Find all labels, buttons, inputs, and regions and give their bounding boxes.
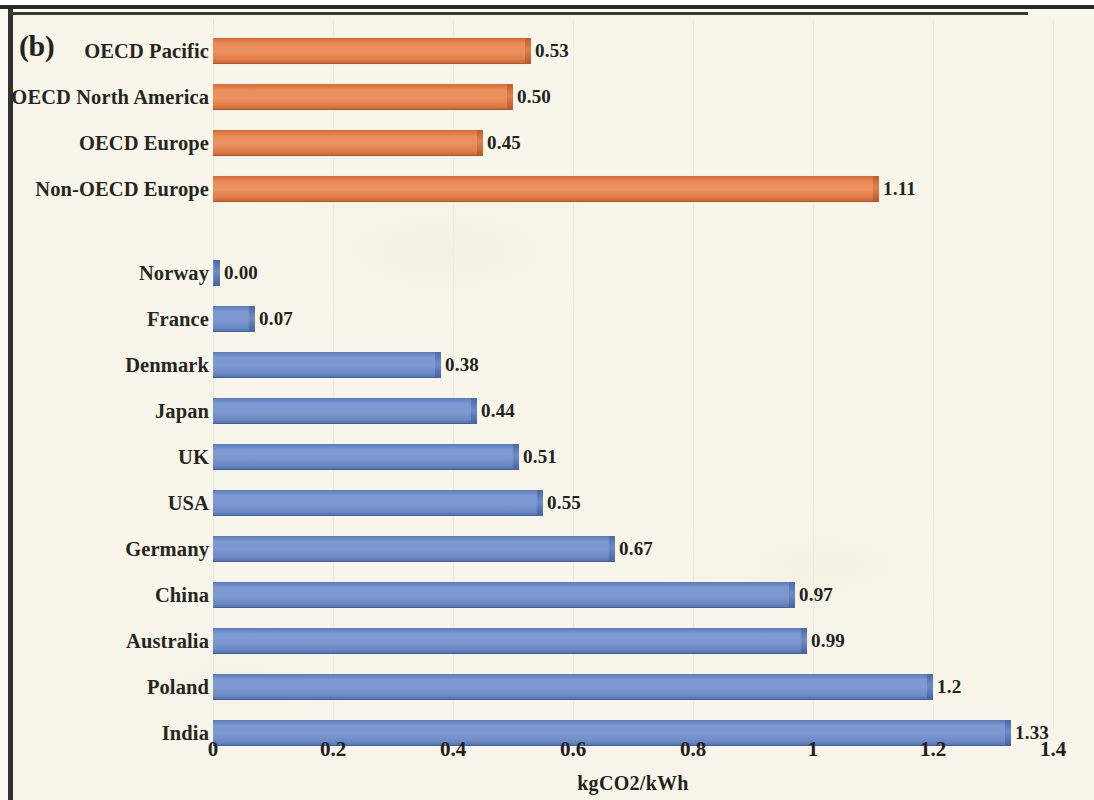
- bar-end-cap: [507, 84, 513, 110]
- bar-end-cap: [537, 490, 543, 516]
- x-axis-title: kgCO2/kWh: [213, 772, 1053, 795]
- bar-category-label: France: [0, 297, 209, 341]
- x-axis-tick-labels: 00.20.40.60.811.21.4: [13, 737, 1094, 771]
- x-axis-tick: 0.4: [440, 737, 466, 762]
- bar-end-cap: [927, 674, 933, 700]
- bar: [213, 176, 879, 202]
- x-axis-tick: 1.4: [1040, 737, 1066, 762]
- bar: [213, 490, 543, 516]
- bar-value-label: 0.99: [811, 619, 845, 663]
- bar-value-label: 0.67: [619, 527, 653, 571]
- bar-category-label: Poland: [0, 665, 209, 709]
- bar-row: China0.97: [13, 573, 1094, 617]
- bar-value-label: 0.53: [535, 29, 569, 73]
- x-axis-tick: 1.2: [920, 737, 946, 762]
- bar-row: OECD North America0.50: [13, 75, 1094, 119]
- bar-value-label: 0.55: [547, 481, 581, 525]
- bar-row: Australia0.99: [13, 619, 1094, 663]
- x-axis-tick: 0.2: [320, 737, 346, 762]
- x-axis-tick: 0.6: [560, 737, 586, 762]
- bar-end-cap: [525, 38, 531, 64]
- bar-row: USA0.55: [13, 481, 1094, 525]
- bar: [213, 628, 807, 654]
- bar-end-cap: [801, 628, 807, 654]
- bar-row: Denmark0.38: [13, 343, 1094, 387]
- bar: [213, 260, 220, 286]
- bar-rows: OECD Pacific0.53OECD North America0.50OE…: [13, 15, 1094, 800]
- bar-category-label: Non-OECD Europe: [0, 167, 209, 211]
- x-axis-tick: 0: [208, 737, 219, 762]
- bar: [213, 38, 531, 64]
- bar-end-cap: [789, 582, 795, 608]
- bar-value-label: 0.97: [799, 573, 833, 617]
- bar-category-label: OECD Pacific: [0, 29, 209, 73]
- bar-value-label: 0.51: [523, 435, 557, 479]
- bar-end-cap: [873, 176, 879, 202]
- page-top-rule: [0, 5, 1094, 9]
- bar-category-label: China: [0, 573, 209, 617]
- bar-value-label: 1.11: [883, 167, 916, 211]
- x-axis-tick: 0.8: [680, 737, 706, 762]
- bar: [213, 536, 615, 562]
- bar: [213, 84, 513, 110]
- bar-row: Germany0.67: [13, 527, 1094, 571]
- bar-end-cap: [513, 444, 519, 470]
- bar: [213, 582, 795, 608]
- bar-category-label: Norway: [0, 251, 209, 295]
- bar-category-label: USA: [0, 481, 209, 525]
- bar-category-label: OECD North America: [0, 75, 209, 119]
- bar-end-cap: [477, 130, 483, 156]
- bar-category-label: Australia: [0, 619, 209, 663]
- bar-end-cap: [609, 536, 615, 562]
- bar-row: OECD Europe0.45: [13, 121, 1094, 165]
- bar-category-label: Denmark: [0, 343, 209, 387]
- bar-row: Norway0.00: [13, 251, 1094, 295]
- scanned-figure-page: (b) OECD Pacific0.53OECD North America0.…: [0, 0, 1094, 800]
- bar-value-label: 0.07: [259, 297, 293, 341]
- bar-end-cap: [435, 352, 441, 378]
- bar-row: Japan0.44: [13, 389, 1094, 433]
- bar-end-cap: [471, 398, 477, 424]
- bar-chart: (b) OECD Pacific0.53OECD North America0.…: [13, 15, 1094, 800]
- bar-category-label: Japan: [0, 389, 209, 433]
- bar-row: Non-OECD Europe1.11: [13, 167, 1094, 211]
- bar-value-label: 0.44: [481, 389, 515, 433]
- bar-category-label: Germany: [0, 527, 209, 571]
- bar-value-label: 1.2: [937, 665, 961, 709]
- bar: [213, 352, 441, 378]
- bar: [213, 674, 933, 700]
- bar-value-label: 0.00: [224, 251, 258, 295]
- bar-category-label: UK: [0, 435, 209, 479]
- bar-end-cap: [214, 260, 220, 286]
- bar-value-label: 0.45: [487, 121, 521, 165]
- bar-category-label: OECD Europe: [0, 121, 209, 165]
- bar-row: Poland1.2: [13, 665, 1094, 709]
- bar-row: OECD Pacific0.53: [13, 29, 1094, 73]
- bar-row: UK0.51: [13, 435, 1094, 479]
- bar: [213, 306, 255, 332]
- bar: [213, 444, 519, 470]
- bar: [213, 398, 477, 424]
- bar-row: France0.07: [13, 297, 1094, 341]
- bar: [213, 130, 483, 156]
- x-axis-tick: 1: [808, 737, 819, 762]
- bar-value-label: 0.50: [517, 75, 551, 119]
- bar-value-label: 0.38: [445, 343, 479, 387]
- bar-end-cap: [249, 306, 255, 332]
